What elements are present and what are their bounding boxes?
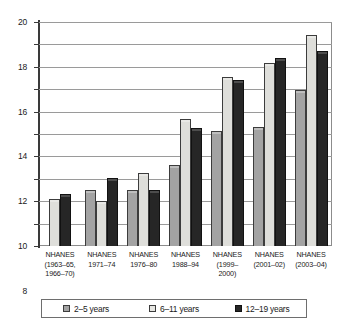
bar-group	[290, 22, 332, 246]
y-tick-label-12: 12	[18, 196, 27, 206]
chart-figure: 02468101214161820 NHANES (1963–65, 1966–…	[0, 0, 350, 326]
bar	[317, 51, 328, 246]
bar	[233, 80, 244, 246]
bar	[107, 178, 118, 246]
legend-item: 6–11 years	[130, 304, 218, 314]
y-tick-0: 0	[34, 246, 39, 247]
bar-group	[206, 22, 248, 246]
bar	[264, 63, 275, 246]
x-axis-label: NHANES (1963–65, 1966–70)	[39, 250, 81, 279]
bar	[275, 58, 286, 246]
chart-legend: 2–5 years6–11 years12–19 years	[41, 299, 307, 318]
y-tick-label-10: 10	[18, 241, 27, 251]
bars-layer	[39, 22, 332, 246]
legend-swatch-icon	[235, 305, 242, 312]
bar	[49, 199, 60, 246]
bar-group	[39, 22, 81, 246]
legend-item: 12–19 years	[218, 304, 306, 314]
legend-swatch-icon	[63, 305, 70, 312]
x-axis-label: NHANES (2001–02)	[248, 250, 290, 269]
bar-group	[81, 22, 123, 246]
bar	[169, 165, 180, 246]
plot-area: 02468101214161820	[39, 22, 332, 246]
legend-label: 2–5 years	[74, 304, 109, 314]
bar-group	[248, 22, 290, 246]
y-tick-label-20: 20	[18, 17, 27, 27]
legend-swatch-icon	[149, 305, 156, 312]
bar	[149, 190, 160, 246]
bar	[295, 90, 306, 246]
x-axis-labels: NHANES (1963–65, 1966–70)NHANES 1971–74N…	[39, 250, 332, 296]
legend-item: 2–5 years	[42, 304, 130, 314]
x-axis-label: NHANES 1976–80	[123, 250, 165, 269]
bar	[222, 77, 233, 246]
legend-label: 6–11 years	[160, 304, 199, 314]
bar	[306, 35, 317, 246]
bar-group	[123, 22, 165, 246]
y-tick-label-8: 8	[22, 286, 27, 296]
bar	[85, 190, 96, 246]
bar	[138, 173, 149, 246]
x-axis-label: NHANES (2003–04)	[290, 250, 332, 269]
bar	[96, 201, 107, 246]
legend-label: 12–19 years	[246, 304, 290, 314]
x-axis-label: NHANES 1971–74	[81, 250, 123, 269]
y-tick-label-16: 16	[18, 107, 27, 117]
bar	[127, 190, 138, 246]
bar	[191, 128, 202, 246]
x-axis-label: NHANES 1988–94	[165, 250, 207, 269]
bar	[253, 127, 264, 246]
x-axis-label: NHANES (1999– 2000)	[206, 250, 248, 279]
bar	[211, 131, 222, 246]
bar	[180, 119, 191, 246]
bar-group	[165, 22, 207, 246]
y-tick-label-14: 14	[18, 151, 27, 161]
bar	[60, 194, 71, 246]
y-tick-label-18: 18	[18, 62, 27, 72]
